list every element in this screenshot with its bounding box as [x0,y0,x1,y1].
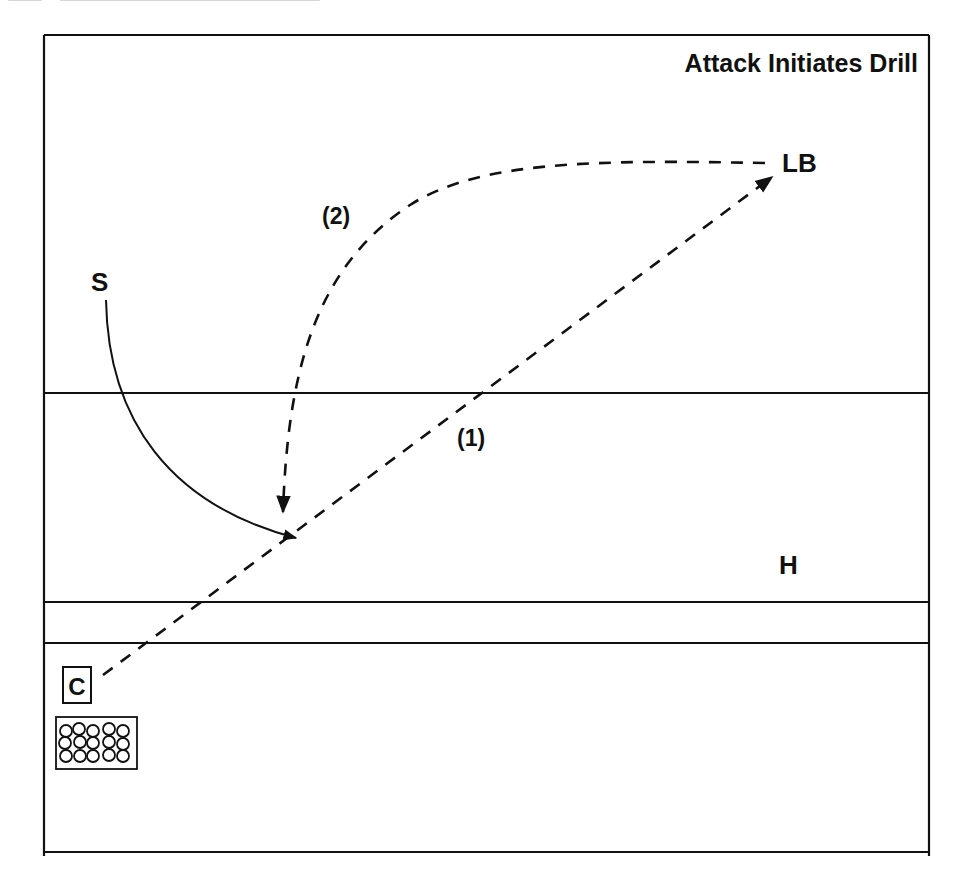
path-2-dashed-arrow [283,162,765,512]
ball-cart-icon [56,717,137,769]
coach-marker: C [63,667,91,703]
setter-run-arrow [106,300,296,538]
player-c: C [68,673,85,700]
path-1-label: (1) [457,425,485,451]
path-1-dashed-arrow [103,177,772,675]
path-2-label: (2) [322,203,350,229]
drill-diagram: Attack Initiates Drill (1) (2) LB S H C [0,0,969,884]
player-s: S [91,267,108,297]
player-h: H [779,550,798,580]
diagram-title: Attack Initiates Drill [685,49,918,77]
court-lines [44,393,929,643]
player-lb: LB [782,148,817,178]
